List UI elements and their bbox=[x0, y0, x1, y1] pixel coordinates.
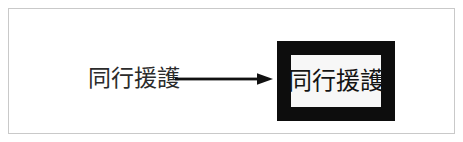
highlighted-term-label: 同行援護 bbox=[288, 68, 384, 95]
figure-frame: 同行援護 同行援護 bbox=[8, 8, 455, 134]
highlighted-term-box-inner: 同行援護 bbox=[291, 55, 381, 107]
right-arrow-glyph bbox=[175, 71, 273, 87]
right-arrow-icon bbox=[175, 71, 273, 87]
source-term-label: 同行援護 bbox=[88, 65, 180, 91]
figure-canvas: 同行援護 同行援護 bbox=[0, 0, 463, 142]
highlighted-term-box: 同行援護 bbox=[277, 41, 395, 121]
